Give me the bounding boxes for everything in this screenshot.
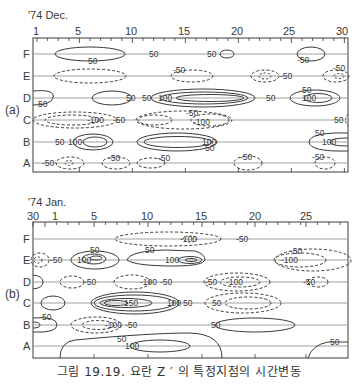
svg-text:-50: -50 xyxy=(113,115,126,125)
svg-text:50: 50 xyxy=(90,245,100,255)
svg-text:-50: -50 xyxy=(160,277,173,287)
panel-b-row-C: C xyxy=(23,297,31,309)
svg-text:-50: -50 xyxy=(297,55,310,65)
svg-text:15: 15 xyxy=(178,25,190,37)
panel-a-row-C: C xyxy=(23,114,31,126)
panel-a-period: '74 Dec. xyxy=(28,9,68,21)
svg-text:20: 20 xyxy=(231,25,243,37)
svg-text:-50: -50 xyxy=(125,320,138,330)
svg-text:-100: -100 xyxy=(180,234,197,244)
svg-text:50: 50 xyxy=(207,49,217,59)
panel-b-row-B: B xyxy=(23,319,30,331)
svg-text:30: 30 xyxy=(336,25,348,37)
svg-text:-100: -100 xyxy=(140,277,157,287)
svg-text:-50: -50 xyxy=(240,152,253,162)
figure-caption: 그림 19.19. 요란 Z ′ 의 특정지점의 시간변동 xyxy=(0,362,358,379)
svg-text:50: 50 xyxy=(142,93,152,103)
svg-text:50: 50 xyxy=(211,320,221,330)
svg-text:50: 50 xyxy=(212,298,222,308)
svg-text:50: 50 xyxy=(126,93,136,103)
panel-b-tag: (b) xyxy=(5,287,20,301)
svg-text:50: 50 xyxy=(42,312,52,322)
svg-text:25: 25 xyxy=(283,25,295,37)
svg-text:100: 100 xyxy=(125,341,139,351)
svg-text:100: 100 xyxy=(165,255,179,265)
svg-text:-50: -50 xyxy=(84,277,97,287)
svg-text:-100: -100 xyxy=(87,115,104,125)
svg-text:-100: -100 xyxy=(281,255,298,265)
svg-text:-100: -100 xyxy=(105,320,122,330)
svg-text:50: 50 xyxy=(183,298,193,308)
panel-a-row-E: E xyxy=(23,70,30,82)
svg-text:-50: -50 xyxy=(280,71,293,81)
svg-text:5: 5 xyxy=(75,25,81,37)
svg-text:50: 50 xyxy=(334,115,344,125)
svg-text:-100: -100 xyxy=(193,117,210,127)
svg-text:-50: -50 xyxy=(205,277,218,287)
figure-canvas: '74 Dec. 1 5 10 15 20 25 30 F E D C B A … xyxy=(0,0,358,388)
panel-b-period: '74 Jan. xyxy=(28,196,66,208)
svg-text:50: 50 xyxy=(266,93,276,103)
contour-b-A-pos50-1 xyxy=(60,333,222,358)
svg-text:20: 20 xyxy=(249,210,261,222)
svg-text:1: 1 xyxy=(52,210,58,222)
svg-text:-50: -50 xyxy=(333,63,346,73)
svg-text:-50: -50 xyxy=(312,152,325,162)
panel-b-row-D: D xyxy=(23,276,31,288)
panel-b-row-F: F xyxy=(23,233,30,245)
svg-text:-50: -50 xyxy=(236,234,249,244)
contour-b-A-pos50-2 xyxy=(308,342,348,358)
svg-text:50: 50 xyxy=(145,245,155,255)
panel-b-row-E: E xyxy=(23,254,30,266)
panel-a-row-D: D xyxy=(23,92,31,104)
svg-text:50: 50 xyxy=(205,143,215,153)
svg-text:25: 25 xyxy=(300,210,312,222)
svg-text:150: 150 xyxy=(124,298,138,308)
svg-text:100: 100 xyxy=(77,255,91,265)
svg-text:100: 100 xyxy=(68,137,82,147)
svg-text:10: 10 xyxy=(125,25,137,37)
svg-text:-100: -100 xyxy=(226,277,243,287)
svg-text:-50: -50 xyxy=(50,255,63,265)
panel-a-tag: (a) xyxy=(5,103,20,117)
svg-text:5: 5 xyxy=(91,210,97,222)
panel-a-row-F: F xyxy=(23,48,30,60)
svg-text:30: 30 xyxy=(27,210,39,222)
svg-text:10: 10 xyxy=(141,210,153,222)
svg-text:50: 50 xyxy=(330,337,340,347)
svg-text:50: 50 xyxy=(88,56,98,66)
svg-text:50: 50 xyxy=(149,49,159,59)
svg-text:-50: -50 xyxy=(158,153,171,163)
svg-text:-50: -50 xyxy=(42,158,55,168)
svg-text:50: 50 xyxy=(38,99,48,109)
svg-text:100: 100 xyxy=(302,93,316,103)
panel-b-row-A: A xyxy=(23,340,31,352)
svg-text:15: 15 xyxy=(195,210,207,222)
svg-text:-50: -50 xyxy=(303,277,316,287)
svg-text:50: 50 xyxy=(55,137,65,147)
panel-a-row-B: B xyxy=(23,136,30,148)
svg-text:100: 100 xyxy=(158,93,172,103)
svg-text:100: 100 xyxy=(322,137,336,147)
svg-text:-50: -50 xyxy=(108,153,121,163)
svg-text:100: 100 xyxy=(167,298,181,308)
panel-a-xtick: 1 xyxy=(33,25,39,37)
panel-a-row-A: A xyxy=(23,157,31,169)
svg-text:-50: -50 xyxy=(173,65,186,75)
